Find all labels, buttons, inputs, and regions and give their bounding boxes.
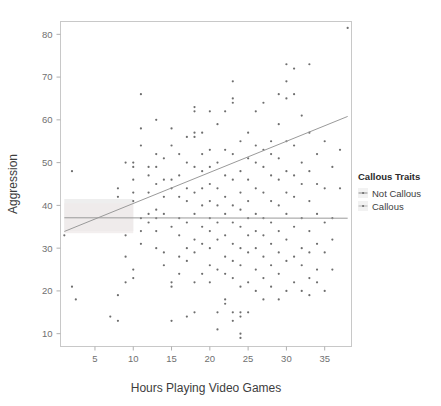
data-point: [232, 80, 234, 82]
data-point: [163, 213, 165, 215]
legend-item-label: Callous: [372, 201, 404, 212]
data-point: [308, 200, 310, 202]
data-point: [308, 294, 310, 296]
x-tick-label: 5: [92, 353, 97, 364]
data-point: [209, 183, 211, 185]
data-point: [224, 196, 226, 198]
data-point: [285, 213, 287, 215]
data-point: [224, 149, 226, 151]
data-point: [239, 140, 241, 142]
data-point: [285, 63, 287, 65]
data-point: [262, 277, 264, 279]
y-axis-title: Aggression: [6, 154, 20, 214]
data-point: [270, 221, 272, 223]
data-point: [232, 320, 234, 322]
data-point: [132, 191, 134, 193]
data-point: [117, 320, 119, 322]
data-point: [155, 166, 157, 168]
data-point: [239, 170, 241, 172]
data-point: [224, 110, 226, 112]
data-point: [201, 132, 203, 134]
data-point: [117, 187, 119, 189]
data-point: [193, 132, 195, 134]
data-point: [193, 251, 195, 253]
data-point: [278, 93, 280, 95]
data-point: [186, 247, 188, 249]
data-point: [278, 204, 280, 206]
data-point: [301, 162, 303, 164]
data-point: [339, 187, 341, 189]
data-point: [186, 136, 188, 138]
y-tick-label: 80: [42, 29, 53, 40]
legend-title: Callous Traits: [358, 171, 420, 182]
data-point: [239, 333, 241, 335]
data-point: [170, 226, 172, 228]
data-point: [186, 162, 188, 164]
x-axis-title: Hours Playing Video Games: [131, 381, 282, 395]
data-point: [71, 286, 73, 288]
data-point: [301, 290, 303, 292]
data-point: [285, 170, 287, 172]
data-point: [293, 144, 295, 146]
data-point: [163, 157, 165, 159]
data-point: [232, 179, 234, 181]
data-point: [209, 166, 211, 168]
data-point: [255, 144, 257, 146]
data-point: [247, 179, 249, 181]
data-point: [140, 230, 142, 232]
standard-error-bands: [64, 199, 133, 233]
data-point: [193, 213, 195, 215]
data-point: [163, 264, 165, 266]
data-point: [132, 200, 134, 202]
data-point: [124, 162, 126, 164]
data-point: [201, 243, 203, 245]
data-point: [278, 273, 280, 275]
data-point: [239, 247, 241, 249]
data-point: [124, 234, 126, 236]
data-point: [193, 281, 195, 283]
data-point: [193, 166, 195, 168]
data-point: [262, 191, 264, 193]
data-point: [147, 221, 149, 223]
data-point: [216, 162, 218, 164]
data-point: [132, 268, 134, 270]
data-point: [155, 209, 157, 211]
data-point: [147, 213, 149, 215]
data-point: [193, 191, 195, 193]
data-point: [155, 153, 157, 155]
data-point: [232, 260, 234, 262]
data-point: [270, 140, 272, 142]
data-point: [224, 213, 226, 215]
y-tick-label: 60: [42, 114, 53, 125]
data-point: [170, 281, 172, 283]
data-point: [155, 119, 157, 121]
data-point: [239, 226, 241, 228]
data-point: [232, 221, 234, 223]
data-point: [147, 174, 149, 176]
data-point: [140, 144, 142, 146]
data-point: [262, 166, 264, 168]
x-tick-label: 30: [281, 353, 292, 364]
data-point: [117, 196, 119, 198]
data-point: [308, 170, 310, 172]
data-point: [293, 281, 295, 283]
data-point: [324, 221, 326, 223]
data-point: [293, 196, 295, 198]
data-point: [224, 256, 226, 258]
data-point: [201, 187, 203, 189]
data-point: [224, 234, 226, 236]
data-point: [324, 251, 326, 253]
data-point: [63, 234, 65, 236]
data-point: [255, 187, 257, 189]
data-point: [255, 110, 257, 112]
data-point: [186, 200, 188, 202]
data-point: [308, 63, 310, 65]
data-point: [270, 264, 272, 266]
data-point: [209, 247, 211, 249]
data-point: [216, 268, 218, 270]
data-point: [193, 110, 195, 112]
data-point: [75, 298, 77, 300]
data-point: [324, 140, 326, 142]
data-point: [270, 243, 272, 245]
data-point: [324, 290, 326, 292]
